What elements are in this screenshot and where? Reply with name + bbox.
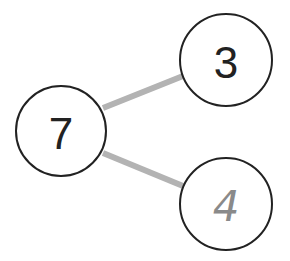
whole-circle: 7 bbox=[16, 86, 106, 176]
part-top-value: 3 bbox=[214, 38, 238, 87]
part-bottom-value: 4 bbox=[213, 182, 240, 231]
whole-value: 7 bbox=[49, 109, 73, 158]
part-circle-top: 3 bbox=[180, 14, 272, 106]
part-circle-bottom: 4 bbox=[180, 158, 272, 250]
connector-whole-to-part-top bbox=[103, 76, 183, 108]
number-bond-diagram: 7 3 4 bbox=[0, 0, 290, 261]
connector-whole-to-part-bottom bbox=[103, 153, 183, 186]
